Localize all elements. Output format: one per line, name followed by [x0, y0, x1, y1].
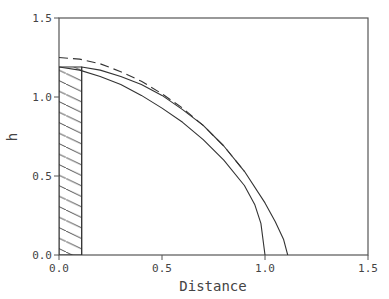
y-axis-ticks: 0.00.51.01.5 — [32, 12, 59, 262]
x-axis-label: Distance — [179, 278, 246, 294]
y-tick-label: 0.0 — [32, 249, 52, 262]
chart: 0.00.51.01.5 0.00.51.01.5 Distance h — [0, 0, 389, 299]
x-tick-label: 0.5 — [152, 262, 172, 275]
hatched-region — [59, 67, 82, 255]
outer-profile-line — [82, 67, 288, 255]
reference-profile-line — [59, 58, 244, 172]
x-tick-label: 1.0 — [255, 262, 275, 275]
y-tick-label: 1.5 — [32, 12, 52, 25]
x-axis-ticks: 0.00.51.01.5 — [49, 255, 378, 275]
y-tick-label: 1.0 — [32, 91, 52, 104]
hatched-block — [59, 67, 82, 255]
series-lines — [59, 58, 288, 256]
x-tick-label: 1.5 — [358, 262, 378, 275]
y-axis-label: h — [4, 133, 20, 141]
plot-frame — [59, 18, 368, 255]
y-tick-label: 0.5 — [32, 170, 52, 183]
x-tick-label: 0.0 — [49, 262, 69, 275]
